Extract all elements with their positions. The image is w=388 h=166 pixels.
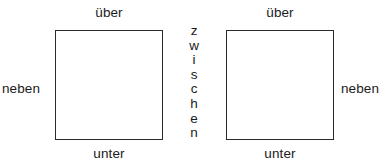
zwischen-letter-0: z [191, 24, 198, 39]
zwischen-letter-3: s [191, 68, 198, 83]
label-ueber-right: über [226, 5, 334, 21]
label-neben-left: neben [2, 81, 50, 97]
zwischen-letter-1: w [189, 39, 199, 54]
label-zwischen-vertical: zwischen [184, 24, 204, 141]
diagram-canvas: über unter neben über unter neben zwisch… [0, 0, 388, 166]
label-unter-left: unter [55, 146, 163, 162]
left-square [55, 30, 163, 140]
right-square [226, 30, 334, 140]
label-neben-right: neben [341, 81, 388, 97]
zwischen-letter-7: n [190, 126, 198, 141]
label-ueber-left: über [55, 5, 163, 21]
zwischen-letter-2: i [193, 53, 196, 68]
zwischen-letter-4: c [191, 82, 198, 97]
zwischen-letter-6: e [190, 112, 198, 127]
label-unter-right: unter [226, 146, 334, 162]
zwischen-letter-5: h [190, 97, 198, 112]
